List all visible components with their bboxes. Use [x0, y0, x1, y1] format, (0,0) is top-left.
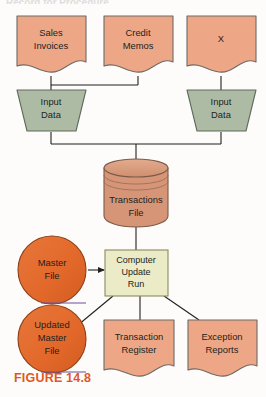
figure-diagram: Record for Procedure: [0, 0, 266, 397]
credit-memos-label-line2: Memos: [123, 40, 154, 51]
transaction-register-label-line1: Transaction: [115, 331, 164, 342]
input-data-left-label-line1: Input: [41, 96, 62, 107]
connector-update-to-exception-reports: [164, 296, 199, 320]
node-transactions-file[interactable]: Transactions File: [104, 159, 168, 227]
transactions-file-label-line1: Transactions: [109, 194, 163, 205]
sales-invoices-label-line2: Invoices: [34, 40, 69, 51]
node-sales-invoices[interactable]: Sales Invoices: [17, 16, 86, 72]
computer-update-run-label-line3: Run: [128, 279, 145, 289]
transaction-register-label-line2: Register: [122, 344, 157, 355]
master-file-label-line2: File: [44, 270, 59, 281]
flowchart-canvas: Sales Invoices Credit Memos X Input Data…: [0, 0, 266, 397]
computer-update-run-label-line1: Computer: [116, 255, 156, 265]
sales-invoices-label-line1: Sales: [39, 27, 63, 38]
master-file-label-line1: Master: [38, 257, 67, 268]
exception-reports-label-line1: Exception: [201, 331, 242, 342]
figure-caption: FIGURE 14.8: [14, 371, 91, 385]
node-input-data-left[interactable]: Input Data: [17, 90, 86, 131]
updated-master-file-label-line1: Updated: [34, 319, 69, 330]
credit-memos-label-line1: Credit: [125, 27, 150, 38]
node-master-file[interactable]: Master File: [18, 236, 86, 304]
updated-master-file-label-line3: File: [44, 345, 59, 356]
node-exception-reports[interactable]: Exception Reports: [188, 320, 257, 376]
exception-reports-label-line2: Reports: [206, 344, 239, 355]
transactions-file-label-line2: File: [128, 207, 143, 218]
cylinder-top-disk: [104, 159, 168, 177]
node-input-data-right[interactable]: Input Data: [187, 90, 256, 131]
updated-master-file-label-line2: Master: [38, 332, 67, 343]
node-transaction-register[interactable]: Transaction Register: [104, 320, 174, 376]
x-document-label-line1: X: [218, 33, 225, 44]
node-credit-memos[interactable]: Credit Memos: [104, 16, 173, 72]
cut-off-header-text: Record for Procedure: [6, 0, 109, 4]
input-data-left-label-line2: Data: [41, 109, 62, 120]
computer-update-run-label-line2: Update: [121, 267, 150, 277]
node-x-document[interactable]: X: [187, 16, 256, 72]
node-computer-update-run[interactable]: Computer Update Run: [105, 250, 168, 296]
input-data-right-label-line1: Input: [211, 96, 232, 107]
input-data-right-label-line2: Data: [211, 109, 232, 120]
node-updated-master-file[interactable]: Updated Master File: [18, 305, 86, 373]
